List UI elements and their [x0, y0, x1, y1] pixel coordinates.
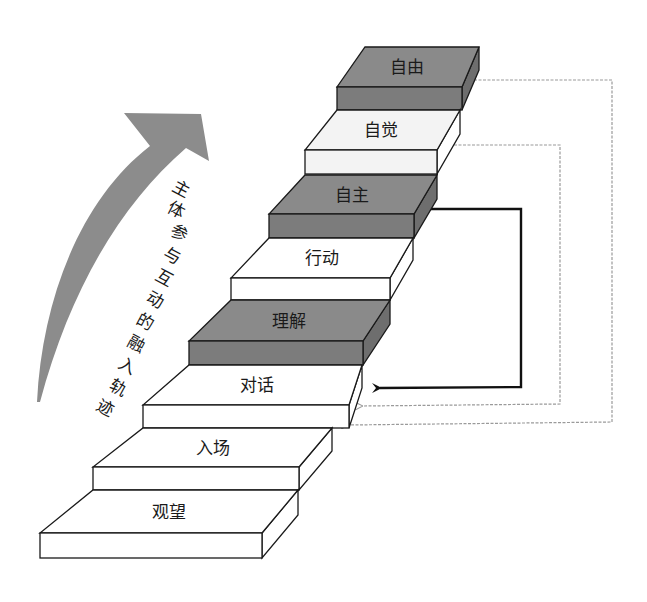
step-front-face — [40, 533, 262, 558]
step-label: 入场 — [196, 438, 230, 458]
caption-char: 的 — [133, 309, 157, 335]
caption-char: 迹 — [93, 395, 117, 421]
step-front-face — [143, 405, 349, 428]
step-2: 入场 — [93, 428, 332, 490]
step-6: 自主 — [269, 175, 437, 238]
step-4: 理解 — [189, 300, 390, 365]
step-front-face — [93, 467, 299, 490]
step-label: 行动 — [305, 248, 339, 268]
caption-char: 轨 — [106, 375, 130, 401]
step-front-face — [231, 278, 390, 300]
step-3: 对话 — [143, 365, 362, 428]
caption-char: 与 — [160, 243, 184, 269]
staircase-diagram: 主体参与互动的融入轨迹 自由自觉自主行动理解对话入场观望 — [0, 0, 647, 602]
step-1: 观望 — [40, 490, 298, 558]
step-label: 自由 — [390, 57, 424, 77]
step-front-face — [269, 214, 414, 238]
step-5: 行动 — [231, 238, 413, 300]
step-label: 自觉 — [364, 120, 398, 140]
step-front-face — [337, 87, 462, 110]
step-label: 理解 — [272, 311, 306, 331]
caption-char: 动 — [143, 287, 167, 313]
step-7: 自觉 — [305, 110, 460, 174]
step-label: 自主 — [335, 185, 369, 205]
step-front-face — [189, 341, 363, 365]
caption-char: 融 — [124, 331, 148, 357]
caption-char: 参 — [167, 220, 191, 246]
caption-char: 互 — [152, 265, 176, 291]
step-label: 对话 — [240, 375, 274, 395]
step-label: 观望 — [152, 502, 186, 522]
step-front-face — [305, 150, 437, 174]
step-8: 自由 — [337, 47, 479, 110]
caption-char: 入 — [115, 353, 139, 379]
